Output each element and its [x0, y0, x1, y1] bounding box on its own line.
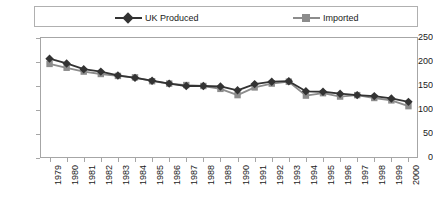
chart-legend: UK Produced Imported	[34, 6, 418, 27]
legend-swatch-diamond-icon	[115, 13, 142, 23]
x-axis-tick-label: 1990	[242, 165, 251, 185]
x-axis-tick-label: 1981	[88, 165, 97, 185]
legend-swatch-square-icon	[293, 13, 320, 23]
legend-label-imported: Imported	[323, 13, 359, 23]
x-axis-tick-label: 1996	[344, 165, 353, 185]
y-axis-tick-mark	[36, 62, 40, 63]
y-axis-tick-mark	[36, 38, 40, 39]
x-axis-tick-label: 1983	[122, 165, 131, 185]
x-axis-tick-mark	[272, 158, 273, 162]
x-axis-tick-mark	[169, 158, 170, 162]
x-axis-tick-label: 1999	[395, 165, 404, 185]
x-axis-tick-mark	[101, 158, 102, 162]
x-axis-tick-mark	[84, 158, 85, 162]
x-axis-tick-mark	[50, 158, 51, 162]
x-axis-tick-mark	[391, 158, 392, 162]
x-axis-tick-mark	[306, 158, 307, 162]
y-axis-tick-label: 50	[399, 129, 433, 138]
x-axis-tick-label: 1985	[156, 165, 165, 185]
legend-entry-imported: Imported	[293, 7, 359, 28]
line-chart: UK Produced Imported 2502001501005001979…	[0, 0, 433, 213]
x-axis-tick-mark	[340, 158, 341, 162]
x-axis-tick-label: 1994	[310, 165, 319, 185]
x-axis-tick-label: 1979	[54, 165, 63, 185]
x-axis-tick-mark	[255, 158, 256, 162]
x-axis-tick-mark	[203, 158, 204, 162]
x-axis-tick-label: 1986	[173, 165, 182, 185]
plot-area	[40, 37, 418, 158]
y-axis-tick-label: 250	[399, 33, 433, 42]
x-axis-tick-mark	[220, 158, 221, 162]
x-axis-tick-label: 1988	[207, 165, 216, 185]
x-axis-tick-label: 1992	[276, 165, 285, 185]
x-axis-tick-label: 1998	[378, 165, 387, 185]
x-axis-tick-mark	[67, 158, 68, 162]
x-axis-tick-label: 1993	[293, 165, 302, 185]
y-axis-tick-label: 150	[399, 81, 433, 90]
legend-label-uk-produced: UK Produced	[145, 13, 199, 23]
x-axis-tick-label: 1987	[190, 165, 199, 185]
legend-entry-uk-produced: UK Produced	[115, 7, 199, 28]
x-axis-tick-label: 1997	[361, 165, 370, 185]
y-axis-tick-label: 0	[399, 153, 433, 162]
y-axis-tick-label: 200	[399, 57, 433, 66]
x-axis-tick-mark	[408, 158, 409, 162]
x-axis-tick-mark	[238, 158, 239, 162]
y-axis-tick-mark	[36, 134, 40, 135]
x-axis-tick-mark	[323, 158, 324, 162]
x-axis-tick-mark	[357, 158, 358, 162]
y-axis-tick-mark	[36, 158, 40, 159]
x-axis-tick-label: 1982	[105, 165, 114, 185]
y-axis-tick-label: 100	[399, 105, 433, 114]
x-axis-tick-mark	[289, 158, 290, 162]
x-axis-tick-label: 1991	[259, 165, 268, 185]
y-axis-tick-mark	[36, 86, 40, 87]
x-axis-tick-mark	[152, 158, 153, 162]
y-axis-tick-mark	[36, 110, 40, 111]
x-axis-tick-label: 1980	[71, 165, 80, 185]
x-axis-tick-mark	[186, 158, 187, 162]
x-axis-tick-label: 1984	[139, 165, 148, 185]
x-axis-tick-mark	[118, 158, 119, 162]
x-axis-tick-mark	[374, 158, 375, 162]
x-axis-tick-label: 1995	[327, 165, 336, 185]
x-axis-tick-label: 2000	[412, 165, 421, 185]
x-axis-tick-label: 1989	[224, 165, 233, 185]
x-axis-tick-mark	[135, 158, 136, 162]
